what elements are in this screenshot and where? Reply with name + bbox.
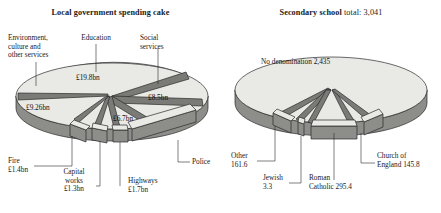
- callout-social: Social services: [140, 34, 164, 51]
- callout-church-of-england: Church of England 145.8: [377, 152, 420, 169]
- callout-roman-catholic: Roman Catholic 295.4: [309, 174, 352, 191]
- callout-capital: Capital works £1.3bn: [52, 168, 96, 194]
- callout-other: Other 161.6: [231, 152, 248, 169]
- label-education-value: £19.8bn: [76, 73, 100, 82]
- callout-jewish: Jewish 3.3: [263, 174, 283, 191]
- callout-fire: Fire £1.4bn: [8, 157, 28, 174]
- chart-secondary-school: Secondary school total: 3,041: [221, 0, 441, 213]
- callout-police: Police: [192, 158, 210, 167]
- callout-education: Education: [70, 34, 122, 43]
- label-environment-value: £9.26bn: [26, 103, 50, 112]
- callout-highways: Highways £1.7bn: [128, 177, 158, 194]
- label-no-denomination-value: No denomination 2,435: [261, 57, 330, 66]
- callout-environment: Environment, culture and other services: [8, 34, 48, 60]
- chart-local-government-spending: Local government spending cake .top{fill…: [0, 0, 221, 213]
- label-social-value: £8.5bn: [148, 93, 168, 102]
- label-police-value: £6.7bn: [113, 114, 133, 123]
